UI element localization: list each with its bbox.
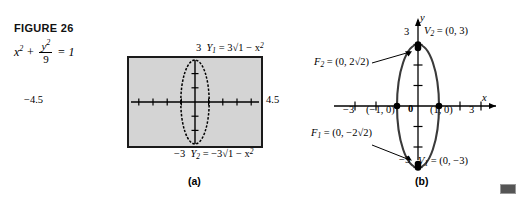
panel-a-y1-expression: = 3√1 − x (219, 42, 260, 53)
panel-b-point-focus-upper (415, 45, 422, 52)
panel-b-xtick-label-pos3: 3 (469, 104, 474, 115)
panel-b-label-vertex-upper: V2 = (0, 3) (424, 25, 468, 38)
panel-b-label-x-intercept-right: (1, 0) (430, 104, 453, 115)
panel-b-label-vertex-lower: V1 = (0, −3) (418, 155, 468, 168)
equation-plus: + (26, 45, 34, 59)
panel-b-label-x-intercept-left: (−1, 0) (366, 104, 395, 115)
panel-a-caption: (a) (188, 175, 201, 187)
panel-b-ytick-label-pos3: 3 (404, 26, 409, 37)
panel-a-ymax-value: 3 (196, 42, 201, 53)
panel-b-label-focus-lower: F1 = (0, −2√2) (311, 127, 372, 140)
panel-a-xmin-label: −4.5 (24, 94, 43, 105)
equation-fraction-denominator: 9 (39, 52, 52, 65)
panel-a-ymin-value: −3 (174, 148, 185, 159)
equation-x-term: x2 (14, 45, 23, 59)
panel-a-y1-subscript: 1 (212, 46, 216, 55)
end-of-figure-marker (500, 184, 516, 194)
panel-b-ytick-label-neg3: −3 (399, 154, 410, 165)
panel-a-y2-label: −3 Y2 = −3√1 − x2 (174, 147, 254, 161)
panel-a-y2-expression: = −3√1 − x (203, 148, 250, 159)
equation-equals-one: = 1 (57, 45, 74, 59)
panel-b-x-axis-arrow (489, 103, 496, 109)
panel-b-origin-label: 0 (408, 103, 413, 114)
figure-equation: x2 + y2 9 = 1 (14, 40, 124, 66)
figure-caption-block: FIGURE 26 x2 + y2 9 = 1 (14, 22, 124, 66)
calculator-screen-panel-a (127, 56, 263, 148)
panel-a-y2-exponent: 2 (250, 147, 254, 156)
figure-label: FIGURE 26 (14, 22, 124, 34)
panel-b-label-focus-upper: F2 = (0, 2√2) (314, 56, 369, 69)
equation-fraction-numerator: y2 (39, 39, 52, 52)
panel-a-y1-label: 3 Y1 = 3√1 − x2 (196, 41, 264, 55)
equation-fraction: y2 9 (39, 39, 52, 65)
panel-b-y-axis-label: y (420, 12, 425, 23)
panel-a-xmax-label: 4.5 (266, 94, 279, 105)
panel-b-caption: (b) (415, 175, 428, 187)
equation-x-exponent: 2 (19, 44, 23, 53)
panel-b-x-axis-label: x (482, 92, 487, 103)
panel-b-xtick-label-neg3: −3 (343, 104, 354, 115)
panel-a-plot (129, 58, 261, 146)
panel-a-y1-exponent: 2 (260, 41, 264, 50)
panel-a-y2-subscript: 2 (196, 152, 200, 161)
